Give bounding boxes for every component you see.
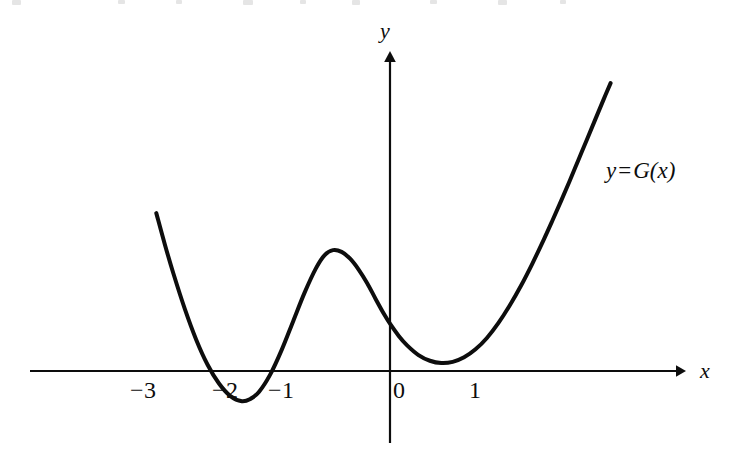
curve-label-equals: = [616, 158, 633, 183]
x-tick-label-one: 1 [469, 378, 482, 402]
y-axis-arrowhead [384, 51, 396, 62]
x-tick-label-zero: 0 [393, 378, 406, 402]
x-tick-label-minus-3: −3 [130, 378, 157, 402]
x-tick-label-minus-2: −2 [212, 378, 239, 402]
curve-equation-label: y=G(x) [606, 159, 675, 182]
function-curve [156, 83, 610, 401]
x-tick-label-minus-1: −1 [268, 378, 295, 402]
plot-canvas [0, 0, 730, 458]
curve-label-variable: y [606, 158, 616, 183]
y-axis-label: y [380, 20, 390, 42]
curve-label-function: G(x) [633, 158, 675, 183]
x-axis [30, 365, 686, 377]
x-axis-arrowhead [676, 365, 686, 377]
x-axis-label: x [700, 360, 710, 382]
graph-figure: y x −3 −2 −1 0 1 y=G(x) [0, 0, 730, 458]
